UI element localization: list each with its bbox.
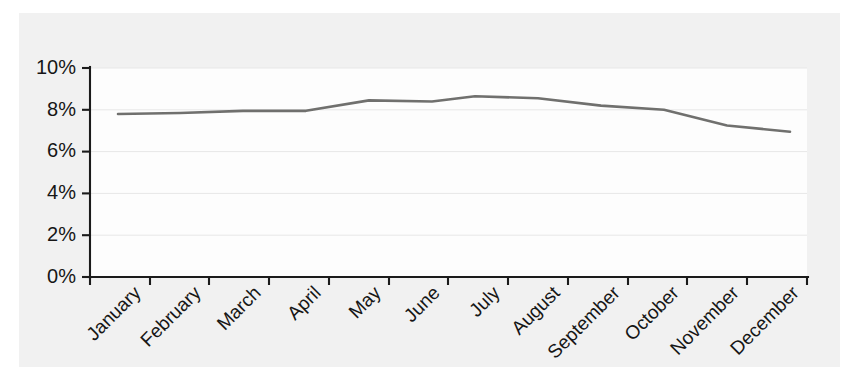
y-tick-label-6pct: 6% [47, 139, 76, 161]
x-tick-label-august: August [507, 281, 564, 338]
y-axis-tick-labels: 10% 8% 6% 4% 2% 0% [36, 56, 76, 287]
y-axis-ticks [82, 68, 90, 277]
x-tick-label-april: April [283, 282, 325, 324]
y-tick-label-8pct: 8% [47, 98, 76, 120]
x-tick-label-july: July [465, 282, 504, 321]
chart-figure: 10% 8% 6% 4% 2% 0% January February [0, 0, 859, 380]
x-tick-label-may: May [345, 282, 386, 323]
y-tick-label-0pct: 0% [47, 265, 76, 287]
x-axis-ticks [90, 277, 807, 285]
x-tick-label-march: March [213, 282, 265, 334]
y-tick-label-2pct: 2% [47, 223, 76, 245]
line-chart: 10% 8% 6% 4% 2% 0% January February [0, 0, 859, 380]
x-tick-label-february: February [136, 282, 205, 351]
x-tick-label-june: June [400, 282, 444, 326]
x-axis-tick-labels: January February March April May June Ju… [82, 281, 803, 362]
y-tick-label-4pct: 4% [47, 181, 76, 203]
y-tick-label-10pct: 10% [36, 56, 76, 78]
